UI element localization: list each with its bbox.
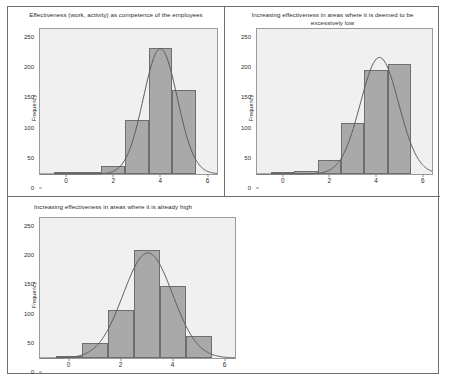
y-tick-label: 0 (31, 369, 34, 375)
chart-panel-1: Effectiveness (work, activity) as compet… (8, 7, 225, 197)
x-tick-label: 4 (374, 177, 378, 184)
y-tick-mark (39, 372, 42, 373)
x-tick-mark (113, 174, 114, 177)
y-tick-label: 150 (24, 281, 34, 287)
y-tick-label: 200 (24, 252, 34, 258)
x-tick-mark (172, 358, 173, 361)
x-tick-label: 6 (223, 361, 227, 368)
y-tick-label: 0 (248, 185, 251, 191)
axes-3: 0246 (39, 217, 236, 359)
x-tick-mark (329, 174, 330, 177)
axes-1: 0246 (39, 28, 218, 175)
chart-panel-2: Increasing effectiveness in areas where … (225, 7, 440, 197)
y-tick-label: 250 (24, 34, 34, 40)
y-tick-mark (39, 188, 42, 189)
x-tick-mark (282, 174, 283, 177)
x-tick-label: 0 (67, 361, 71, 368)
normal-curve-2 (257, 29, 432, 174)
x-tick-mark (224, 358, 225, 361)
y-tick-label: 50 (27, 340, 34, 346)
x-axis-ticks: 0246 (40, 358, 235, 370)
x-tick-label: 2 (328, 177, 332, 184)
plot-area-1: Frequency 050100150200250 0246 (22, 28, 218, 188)
x-tick-label: 0 (64, 177, 68, 184)
y-tick-label: 150 (241, 94, 251, 100)
axes-2: 0246 (256, 28, 433, 175)
x-tick-mark (376, 174, 377, 177)
y-tick-label: 50 (244, 155, 251, 161)
y-axis-ticks: 050100150200250 (239, 28, 256, 188)
x-tick-mark (65, 174, 66, 177)
x-tick-mark (160, 174, 161, 177)
y-tick-label: 100 (241, 125, 251, 131)
y-tick-label: 100 (24, 125, 34, 131)
x-tick-label: 2 (111, 177, 115, 184)
plot-area-2: Frequency 050100150200250 0246 (239, 28, 433, 188)
x-tick-mark (68, 358, 69, 361)
x-tick-label: 0 (281, 177, 285, 184)
chart-title: Increasing effectiveness in areas where … (225, 11, 440, 27)
x-tick-label: 6 (421, 177, 425, 184)
y-tick-label: 50 (27, 155, 34, 161)
x-tick-mark (422, 174, 423, 177)
y-axis-ticks: 050100150200250 (22, 28, 39, 188)
x-tick-mark (120, 358, 121, 361)
x-axis-ticks: 0246 (257, 174, 432, 186)
y-tick-label: 100 (24, 311, 34, 317)
x-tick-label: 2 (119, 361, 123, 368)
y-tick-label: 200 (24, 64, 34, 70)
chart-title: Increasing effectiveness in areas where … (8, 203, 249, 211)
x-axis-ticks: 0246 (40, 174, 217, 186)
x-tick-mark (207, 174, 208, 177)
chart-title: Effectiveness (work, activity) as compet… (8, 11, 224, 19)
y-tick-label: 150 (24, 94, 34, 100)
y-tick-label: 250 (241, 34, 251, 40)
x-tick-label: 4 (171, 361, 175, 368)
y-tick-label: 200 (241, 64, 251, 70)
normal-curve-1 (40, 29, 217, 174)
figure-frame: Effectiveness (work, activity) as compet… (7, 6, 439, 374)
normal-curve-3 (40, 218, 235, 358)
chart-panel-3: Increasing effectiveness in areas where … (8, 197, 249, 375)
x-tick-label: 6 (206, 177, 210, 184)
plot-area-3: Frequency 050100150200250 0246 (22, 217, 236, 372)
y-tick-mark (256, 188, 259, 189)
x-tick-label: 4 (159, 177, 163, 184)
y-tick-label: 250 (24, 223, 34, 229)
y-tick-label: 0 (31, 185, 34, 191)
y-axis-ticks: 050100150200250 (22, 217, 39, 372)
